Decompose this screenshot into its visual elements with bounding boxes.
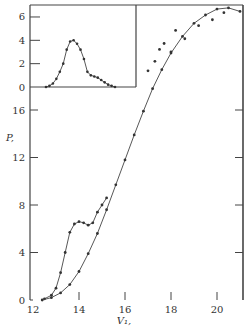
data-point — [78, 220, 81, 223]
inset-data-point — [45, 86, 48, 89]
data-point — [114, 183, 117, 186]
data-point — [223, 11, 226, 14]
data-point — [96, 232, 99, 235]
tick-labels: 048121612141618200246 — [12, 11, 223, 315]
inset-data-point — [83, 58, 86, 61]
data-point — [197, 24, 200, 27]
x-tick-label: 14 — [73, 304, 86, 315]
inset-data-point — [59, 71, 62, 74]
data-point — [227, 6, 230, 9]
inset-data-point — [110, 85, 113, 88]
inset-y-tick-label: 4 — [19, 35, 25, 46]
y-axis-label: P, — [5, 132, 14, 143]
data-point — [124, 158, 127, 161]
data-point — [204, 14, 207, 17]
data-point — [78, 270, 81, 273]
data-point — [160, 68, 163, 71]
data-point — [68, 283, 71, 286]
x-axis-label: V₁, — [117, 315, 131, 326]
data-point — [82, 221, 85, 224]
series-layer — [41, 6, 242, 301]
data-point — [59, 291, 62, 294]
inset-data-point — [69, 40, 72, 43]
inset-data-point — [96, 76, 99, 79]
x-tick-label: 12 — [27, 304, 40, 315]
inset-data-point — [93, 75, 96, 78]
y-tick-label: 4 — [19, 247, 25, 258]
data-point — [211, 18, 214, 21]
data-point — [216, 8, 219, 11]
inset-y-tick-label: 2 — [19, 58, 25, 69]
data-point — [41, 299, 44, 302]
data-point — [73, 223, 76, 226]
data-point — [55, 287, 58, 290]
data-point — [59, 271, 62, 274]
y-tick-label: 0 — [19, 295, 25, 306]
data-point — [87, 252, 90, 255]
inset-data-point — [65, 48, 68, 51]
x-tick-label: 16 — [119, 304, 132, 315]
data-point — [133, 134, 136, 137]
x-tick-label: 20 — [211, 304, 224, 315]
data-point — [239, 10, 242, 13]
data-point — [105, 196, 108, 199]
inset-data-point — [48, 85, 51, 88]
data-point — [174, 29, 177, 32]
data-point — [151, 87, 154, 90]
y-tick-label: 16 — [12, 105, 25, 116]
data-point — [105, 208, 108, 211]
series-line-smooth-curve — [42, 8, 240, 300]
chart: 048121612141618200246 V₁, P, — [0, 0, 246, 328]
data-point — [193, 22, 196, 25]
inset-data-point — [79, 48, 82, 51]
data-point — [142, 110, 145, 113]
y-tick-label: 8 — [19, 200, 25, 211]
inset-data-point — [62, 62, 65, 65]
data-point — [64, 251, 67, 254]
data-point — [181, 35, 184, 38]
data-point — [50, 296, 53, 299]
inset-data-point — [52, 82, 55, 85]
inset-data-point — [55, 78, 58, 81]
inset-data-point — [90, 74, 93, 77]
data-point — [170, 50, 173, 53]
inset-data-point — [72, 39, 75, 42]
y-tick-label: 12 — [12, 152, 25, 163]
inset-y-tick-label: 6 — [19, 11, 25, 22]
inset-data-point — [86, 71, 89, 74]
data-point — [163, 42, 166, 45]
data-point — [91, 221, 94, 224]
data-point — [158, 48, 161, 51]
inset-y-tick-label: 0 — [19, 82, 25, 93]
data-point — [96, 211, 99, 214]
data-point — [68, 231, 71, 234]
inset-data-point — [103, 81, 106, 84]
data-point — [147, 69, 150, 72]
x-tick-label: 18 — [165, 304, 178, 315]
inset-data-point — [100, 79, 103, 82]
data-point — [154, 60, 157, 63]
inset-data-point — [114, 86, 117, 89]
data-point — [183, 37, 186, 40]
data-point — [87, 224, 90, 227]
inset-data-point — [107, 83, 110, 86]
inset-data-point — [76, 43, 79, 46]
data-point — [101, 204, 104, 207]
